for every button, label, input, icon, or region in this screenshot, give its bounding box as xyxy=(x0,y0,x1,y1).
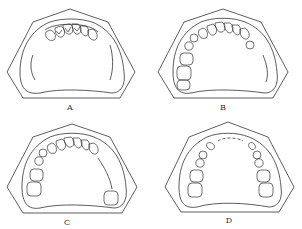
teeth-group-c xyxy=(27,137,118,205)
arch-panel-d: D xyxy=(151,115,302,229)
arch-drawing-a xyxy=(0,0,151,115)
arch-drawing-b xyxy=(151,0,302,115)
arch-panel-a: A xyxy=(0,0,151,115)
panel-label-c: C xyxy=(57,218,77,227)
arch-drawing-c xyxy=(0,115,151,229)
teeth-group-b xyxy=(177,22,254,90)
arch-panel-b: B xyxy=(151,0,302,115)
arch-panel-c: C xyxy=(0,115,151,229)
panel-label-b: B xyxy=(213,103,233,112)
panel-label-a: A xyxy=(60,103,80,112)
panel-label-d: D xyxy=(219,216,239,225)
teeth-group-a xyxy=(46,24,98,40)
teeth-group-d xyxy=(188,143,273,197)
arch-drawing-d xyxy=(151,115,302,229)
